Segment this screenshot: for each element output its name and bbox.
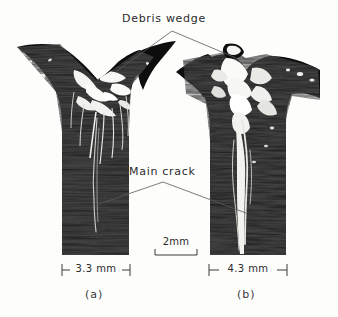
subfigure-caption-a: (a) <box>85 288 103 301</box>
scale-bar: 2mm <box>152 236 200 256</box>
debris-wedge-leader <box>117 31 236 71</box>
main-crack-leader <box>96 182 246 213</box>
dimension-left-label: 3.3 mm <box>60 263 132 274</box>
scale-bar-label: 2mm <box>152 236 200 247</box>
debris-wedge-label: Debris wedge <box>122 12 206 25</box>
scale-bar-rule <box>152 248 200 256</box>
main-crack-label: Main crack <box>129 165 196 178</box>
subfigure-caption-b: (b) <box>237 288 256 301</box>
dimension-right-label: 4.3 mm <box>207 263 289 274</box>
figure-container: Debris wedge Main crack 2mm 3.3 mm 4.3 m… <box>0 0 338 317</box>
